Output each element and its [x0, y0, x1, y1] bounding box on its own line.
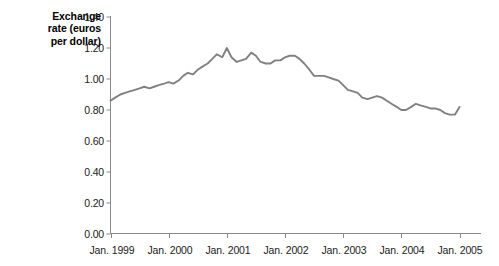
- x-axis-ticks: [112, 234, 461, 238]
- y-axis-ticks: [107, 17, 111, 234]
- plot-area: [0, 0, 499, 266]
- exchange-rate-chart: Exchange rate (euros per dollar) 1.40 1.…: [0, 0, 499, 266]
- exchange-rate-line: [111, 48, 460, 115]
